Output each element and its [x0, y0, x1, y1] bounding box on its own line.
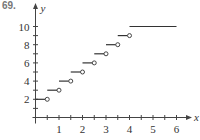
x-tick-label: 1: [56, 123, 62, 135]
x-tick-label: 2: [80, 123, 86, 135]
y-tick-label: 2: [24, 93, 30, 105]
open-endpoint-icon: [116, 43, 120, 47]
x-axis-arrow-icon: [186, 115, 192, 120]
y-tick-label: 4: [24, 75, 30, 87]
open-endpoint-icon: [69, 79, 73, 83]
x-tick-label: 5: [150, 123, 156, 135]
y-axis-arrow-icon: [33, 3, 38, 9]
x-tick-label: 4: [127, 123, 133, 135]
y-tick-label: 6: [24, 57, 30, 69]
open-endpoint-icon: [128, 34, 132, 38]
open-endpoint-icon: [81, 70, 85, 74]
x-axis-label: x: [193, 111, 199, 123]
open-endpoint-icon: [45, 97, 49, 101]
open-endpoint-icon: [104, 52, 108, 56]
x-tick-label: 3: [103, 123, 109, 135]
x-tick-label: 6: [174, 123, 180, 135]
y-axis-label: y: [40, 2, 46, 14]
open-endpoint-icon: [57, 88, 61, 92]
open-endpoint-icon: [92, 61, 96, 65]
y-tick-label: 10: [19, 21, 31, 33]
step-function-chart: xy123456246810: [0, 0, 200, 140]
y-tick-label: 8: [24, 39, 30, 51]
